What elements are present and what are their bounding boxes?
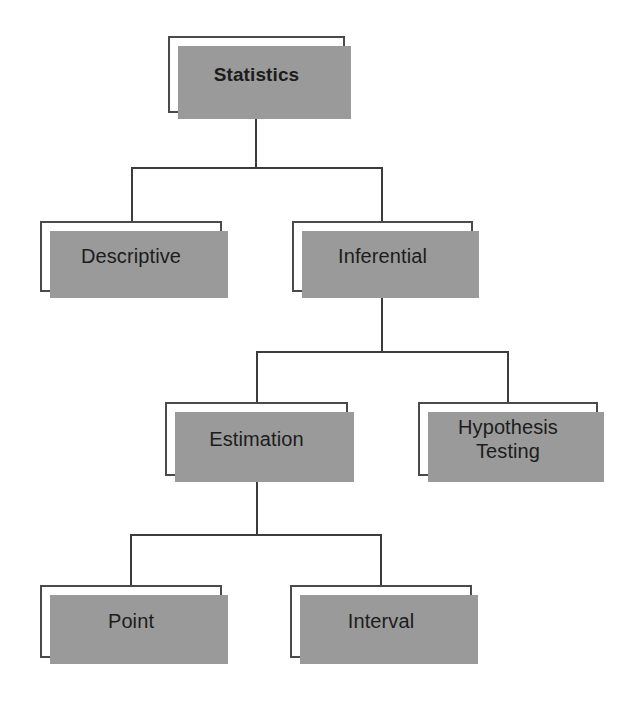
connector-inferential-stem bbox=[381, 292, 383, 352]
connector-to-estimation bbox=[256, 351, 258, 403]
connector-to-point bbox=[130, 534, 132, 586]
node-estimation[interactable]: Estimation bbox=[165, 402, 348, 476]
connector-estimation-stem bbox=[256, 476, 258, 535]
connector-to-descriptive bbox=[131, 167, 133, 222]
node-interval[interactable]: Interval bbox=[290, 585, 472, 658]
connector-to-interval bbox=[380, 534, 382, 586]
connector-estimation-bar bbox=[132, 534, 382, 536]
node-inferential-label: Inferential bbox=[338, 244, 427, 268]
node-interval-label: Interval bbox=[348, 609, 414, 633]
connector-statistics-bar bbox=[133, 167, 383, 169]
connector-statistics-stem bbox=[255, 113, 257, 169]
connector-to-hypothesis-testing bbox=[507, 351, 509, 403]
node-statistics[interactable]: Statistics bbox=[168, 36, 345, 113]
node-hypothesis-testing[interactable]: Hypothesis Testing bbox=[418, 402, 598, 476]
diagram-canvas: Statistics Descriptive Inferential Estim… bbox=[0, 0, 632, 716]
connector-to-inferential bbox=[381, 167, 383, 222]
connector-inferential-bar bbox=[258, 351, 509, 353]
node-descriptive[interactable]: Descriptive bbox=[40, 221, 222, 292]
node-hypothesis-testing-label: Hypothesis Testing bbox=[458, 415, 558, 464]
node-point-label: Point bbox=[108, 609, 154, 633]
node-descriptive-label: Descriptive bbox=[81, 244, 181, 268]
node-inferential[interactable]: Inferential bbox=[292, 221, 473, 292]
node-point[interactable]: Point bbox=[40, 585, 222, 658]
node-estimation-label: Estimation bbox=[209, 427, 303, 451]
node-statistics-label: Statistics bbox=[214, 63, 299, 86]
